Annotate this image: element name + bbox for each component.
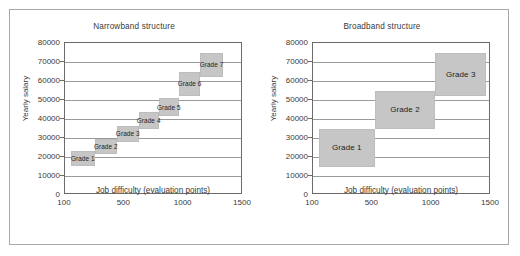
y-tick-mark (60, 156, 64, 157)
x-tick-label: 500 (365, 198, 378, 207)
y-tick-label: 50000 (262, 95, 308, 104)
y-tick-mark (308, 118, 312, 119)
y-tick-mark (60, 175, 64, 176)
grade-band-label: Grade 2 (390, 105, 420, 114)
gridline (65, 100, 241, 101)
grade-band-label: Grade 3 (446, 70, 476, 79)
y-tick-label: 0 (14, 190, 60, 199)
gridline (65, 138, 241, 139)
grade-band-label: Grade 7 (200, 61, 224, 68)
x-axis-title: Job difficulty (evaluation points) (96, 186, 210, 195)
grade-band-label: Grade 5 (157, 104, 181, 111)
y-tick-mark (60, 61, 64, 62)
y-tick-label: 10000 (14, 171, 60, 180)
gridline (65, 81, 241, 82)
grade-band: Grade 2 (95, 139, 117, 154)
chart-panel-broadband: Broadband structure Yearly salary Grade … (262, 16, 502, 238)
y-tick-mark (308, 137, 312, 138)
y-tick-mark (60, 118, 64, 119)
grade-band: Grade 3 (117, 126, 139, 142)
x-tick-label: 1000 (422, 198, 440, 207)
y-tick-mark (308, 61, 312, 62)
grade-band-label: Grade 1 (71, 155, 95, 162)
y-tick-label: 80000 (262, 38, 308, 47)
x-axis-title: Job difficulty (evaluation points) (344, 186, 458, 195)
chart-title-narrowband: Narrowband structure (14, 22, 254, 31)
y-tick-label: 40000 (14, 114, 60, 123)
y-tick-mark (308, 99, 312, 100)
x-tick-label: 500 (117, 198, 130, 207)
grade-band: Grade 4 (139, 112, 159, 129)
grade-band-label: Grade 4 (137, 117, 161, 124)
y-tick-label: 30000 (262, 133, 308, 142)
chart-title-broadband: Broadband structure (262, 22, 502, 31)
y-tick-label: 10000 (262, 171, 308, 180)
chart-panel-narrowband: Narrowband structure Yearly salary Grade… (14, 16, 254, 238)
y-tick-label: 0 (262, 190, 308, 199)
y-tick-mark (60, 80, 64, 81)
y-tick-label: 20000 (262, 152, 308, 161)
y-tick-label: 70000 (14, 57, 60, 66)
y-tick-label: 40000 (262, 114, 308, 123)
y-tick-mark (60, 99, 64, 100)
grade-band: Grade 2 (375, 91, 436, 129)
grade-band-label: Grade 6 (178, 80, 202, 87)
grade-band-label: Grade 1 (332, 143, 362, 152)
x-tick-label: 100 (305, 198, 318, 207)
grade-band-label: Grade 3 (116, 130, 140, 137)
y-tick-label: 60000 (262, 76, 308, 85)
y-tick-mark (308, 175, 312, 176)
y-tick-label: 30000 (14, 133, 60, 142)
x-tick-label: 1000 (174, 198, 192, 207)
grade-band: Grade 6 (179, 72, 200, 97)
grade-band: Grade 5 (159, 98, 179, 116)
gridline (65, 176, 241, 177)
y-tick-mark (308, 80, 312, 81)
y-tick-label: 20000 (14, 152, 60, 161)
x-tick-label: 1500 (481, 198, 499, 207)
grade-band: Grade 1 (319, 129, 375, 167)
x-tick-label: 1500 (233, 198, 251, 207)
x-tick-label: 100 (57, 198, 70, 207)
y-tick-mark (308, 156, 312, 157)
y-tick-label: 80000 (14, 38, 60, 47)
grade-band: Grade 1 (71, 151, 95, 166)
grade-band: Grade 7 (200, 53, 223, 78)
y-tick-label: 70000 (262, 57, 308, 66)
grade-band-label: Grade 2 (94, 143, 118, 150)
y-tick-label: 50000 (14, 95, 60, 104)
plot-area-broadband: Grade 1Grade 2Grade 3 (312, 42, 490, 194)
y-tick-label: 60000 (14, 76, 60, 85)
gridline (313, 176, 489, 177)
figure-frame: Narrowband structure Yearly salary Grade… (9, 9, 509, 245)
grade-band: Grade 3 (435, 53, 486, 97)
plot-area-narrowband: Grade 1Grade 2Grade 3Grade 4Grade 5Grade… (64, 42, 242, 194)
y-tick-mark (60, 137, 64, 138)
